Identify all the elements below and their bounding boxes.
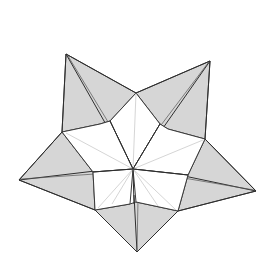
origami-star-diagram [0, 0, 276, 270]
